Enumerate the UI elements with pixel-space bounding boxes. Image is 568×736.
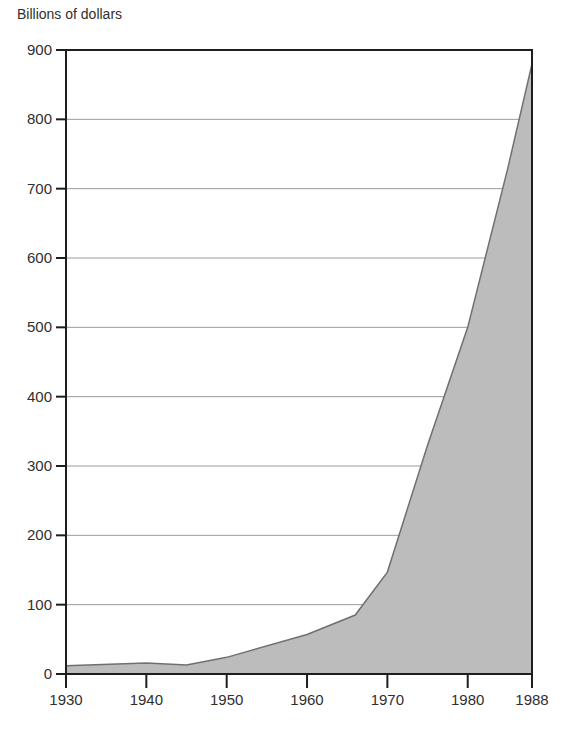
y-tick-label: 400 [27,388,52,405]
y-tick-label: 600 [27,249,52,266]
x-tick-label: 1980 [451,691,484,708]
x-tick-label: 1930 [49,691,82,708]
x-tick-label: 1970 [371,691,404,708]
y-tick-label: 900 [27,41,52,58]
x-tick-label: 1960 [290,691,323,708]
y-tick-label: 300 [27,457,52,474]
y-tick-label: 0 [44,665,52,682]
y-tick-label: 800 [27,110,52,127]
area-chart: 0100200300400500600700800900 19301940195… [0,0,568,736]
area-series [66,64,532,674]
x-tick-label: 1950 [210,691,243,708]
y-tick-label: 200 [27,526,52,543]
y-tick-label: 500 [27,318,52,335]
y-axis-ticks: 0100200300400500600700800900 [27,41,66,682]
y-tick-label: 700 [27,180,52,197]
x-tick-label: 1940 [130,691,163,708]
x-tick-label: 1988 [515,691,548,708]
y-tick-label: 100 [27,596,52,613]
x-axis-ticks: 1930194019501960197019801988 [49,674,548,708]
